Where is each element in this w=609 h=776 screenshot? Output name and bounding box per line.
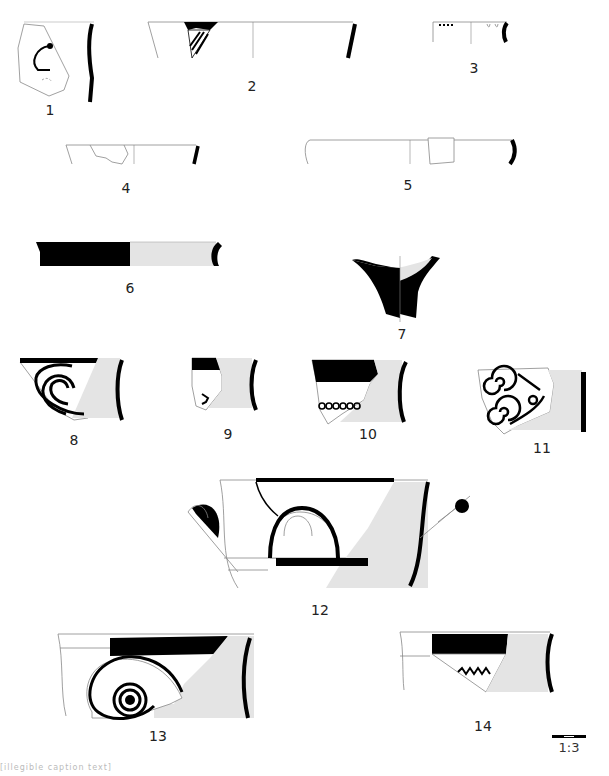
figure-label: 10 bbox=[348, 426, 388, 442]
figure-label: 2 bbox=[232, 78, 272, 94]
figure-6 bbox=[36, 242, 222, 268]
sherd-drawing bbox=[66, 144, 200, 166]
figure-label: 11 bbox=[522, 440, 562, 456]
scale-label: 1:3 bbox=[552, 740, 586, 755]
figure-label: 6 bbox=[110, 280, 150, 296]
figure-label: 12 bbox=[300, 602, 340, 618]
scale-bar-segment bbox=[552, 735, 564, 738]
figure-1 bbox=[14, 18, 104, 98]
sherd-drawing bbox=[433, 20, 513, 46]
figure-label: 3 bbox=[454, 60, 494, 76]
figure-13 bbox=[58, 632, 256, 720]
figure-label: 9 bbox=[208, 426, 248, 442]
sherd-drawing bbox=[58, 632, 256, 720]
figure-11 bbox=[478, 368, 590, 436]
figure-10 bbox=[312, 360, 412, 426]
sherd-drawing bbox=[148, 20, 358, 62]
figure-label: 13 bbox=[138, 728, 178, 744]
sherd-drawing bbox=[352, 256, 442, 322]
figure-label: 1 bbox=[30, 102, 70, 118]
figure-label: 4 bbox=[106, 180, 146, 196]
figure-14 bbox=[400, 630, 556, 692]
figure-label: 14 bbox=[463, 718, 503, 734]
sherd-drawing bbox=[400, 630, 556, 692]
figure-3 bbox=[433, 20, 513, 46]
figure-7 bbox=[352, 256, 442, 322]
scale-bar: 1:3 bbox=[552, 735, 586, 755]
sherd-drawing bbox=[312, 360, 412, 426]
sherd-drawing bbox=[302, 138, 518, 166]
figure-2 bbox=[148, 20, 358, 62]
figure-caption: [illegible caption text] bbox=[0, 763, 609, 775]
figure-label: 7 bbox=[382, 326, 422, 342]
vessel-drawing bbox=[188, 478, 488, 590]
figure-label: 5 bbox=[388, 177, 428, 193]
sherd-drawing bbox=[190, 358, 266, 416]
sherd-drawing bbox=[18, 358, 130, 422]
scale-bar-segment bbox=[574, 735, 586, 738]
figure-label: 8 bbox=[54, 432, 94, 448]
figure-5 bbox=[302, 138, 518, 166]
figure-8 bbox=[18, 358, 130, 422]
sherd-drawing bbox=[36, 242, 222, 268]
sherd-drawing bbox=[478, 368, 590, 436]
figure-4 bbox=[66, 144, 200, 166]
figure-9 bbox=[190, 358, 266, 416]
figure-12 bbox=[188, 478, 488, 590]
scale-bar-segment bbox=[564, 735, 574, 738]
sherd-drawing bbox=[14, 18, 104, 98]
